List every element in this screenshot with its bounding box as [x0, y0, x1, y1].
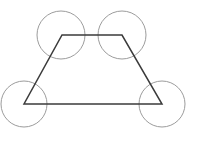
geometry-figure-canvas [0, 0, 198, 146]
geometry-diagram [0, 0, 198, 146]
